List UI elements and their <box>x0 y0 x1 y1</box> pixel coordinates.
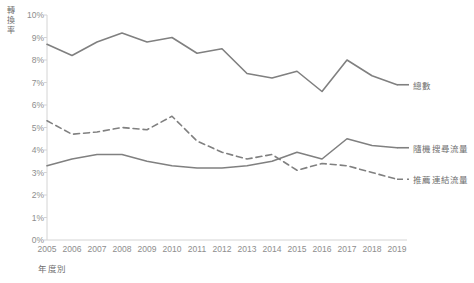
x-axis-title: 年度別 <box>38 262 67 274</box>
x-axis-tick-label: 2010 <box>163 244 182 254</box>
x-axis-tick-label: 2018 <box>363 244 382 254</box>
x-axis-tick-label: 2006 <box>63 244 82 254</box>
series-line <box>47 116 397 179</box>
series-line <box>47 139 397 168</box>
series-line <box>47 33 397 92</box>
series-label-2: 隨機搜尋流量 <box>413 142 469 154</box>
x-axis-tick-label: 2008 <box>113 244 132 254</box>
x-axis-tick-label: 2016 <box>313 244 332 254</box>
x-axis-tick-label: 2009 <box>138 244 157 254</box>
x-axis-tick-label: 2017 <box>338 244 357 254</box>
x-axis-tick-label: 2007 <box>88 244 107 254</box>
x-axis-tick-label: 2019 <box>388 244 407 254</box>
series-label-1: 總數 <box>413 79 432 91</box>
x-axis-tick-label: 2014 <box>263 244 282 254</box>
x-axis-tick-label: 2005 <box>38 244 57 254</box>
x-axis-tick-label: 2012 <box>213 244 232 254</box>
x-axis-tick-label: 2015 <box>288 244 307 254</box>
x-axis-tick-label: 2011 <box>188 244 206 254</box>
series-label-3: 推薦連結流量 <box>413 173 469 185</box>
plot-area <box>0 0 474 283</box>
conversion-rate-line-chart: 轉換率 0%1%2%3%4%5%6%7%8%9%10% 年度別 20052006… <box>0 0 474 283</box>
x-axis-tick-label: 2013 <box>238 244 257 254</box>
